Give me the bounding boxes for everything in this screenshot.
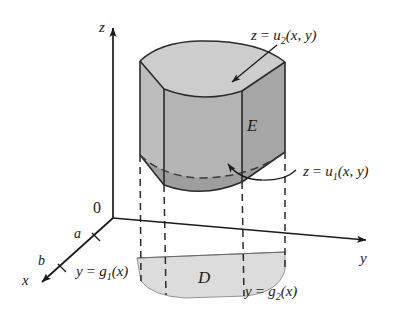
solid-e-group bbox=[140, 41, 285, 191]
left-boundary-args: (x) bbox=[112, 263, 129, 280]
solid-e-label: E bbox=[246, 116, 258, 135]
lower-surface-operator: = bbox=[313, 163, 321, 179]
left-boundary-equation: y=g1(x) bbox=[74, 263, 128, 282]
upper-surface-var: z bbox=[250, 27, 257, 43]
right-boundary-equation: y=g2(x) bbox=[243, 283, 297, 302]
lower-surface-args: (x, y) bbox=[338, 163, 369, 180]
left-boundary-var: y bbox=[74, 263, 83, 279]
y-axis bbox=[113, 218, 366, 240]
figure-container: z y x 0 a b E D z=u2(x, y) z=u1(x, y) y=… bbox=[0, 0, 393, 313]
x-tick-label-a: a bbox=[74, 226, 81, 241]
upper-surface-equation: z=u2(x, y) bbox=[250, 27, 317, 46]
right-boundary-operator: = bbox=[256, 283, 264, 299]
projection-d-label: D bbox=[197, 268, 211, 287]
z-axis-label: z bbox=[98, 19, 105, 35]
x-axis-label: x bbox=[21, 272, 29, 288]
x-axis-tick-b bbox=[58, 264, 66, 272]
right-boundary-args: (x) bbox=[281, 283, 298, 300]
upper-surface-func: u bbox=[273, 27, 281, 43]
lower-surface-func: u bbox=[325, 163, 333, 179]
y-axis-label: y bbox=[358, 250, 367, 266]
lower-surface-leader-curve bbox=[262, 170, 296, 180]
origin-label: 0 bbox=[93, 199, 101, 216]
left-boundary-operator: = bbox=[87, 263, 95, 279]
upper-surface-operator: = bbox=[261, 27, 269, 43]
lower-surface-equation: z=u1(x, y) bbox=[302, 163, 369, 182]
x-tick-label-b: b bbox=[38, 253, 45, 268]
type1-solid-region-diagram: z y x 0 a b E D z=u2(x, y) z=u1(x, y) y=… bbox=[0, 0, 393, 313]
upper-surface-args: (x, y) bbox=[286, 27, 317, 44]
solid-e-front-left-face bbox=[164, 89, 242, 185]
right-boundary-var: y bbox=[243, 283, 252, 299]
lower-surface-var: z bbox=[302, 163, 309, 179]
